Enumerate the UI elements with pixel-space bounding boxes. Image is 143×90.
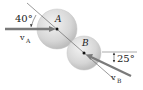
- ball-b-center: [83, 52, 86, 55]
- velocity-b-label: v B: [110, 73, 122, 84]
- angle-arc-40-arrowhead: [30, 24, 33, 27]
- velocity-b-symbol: v: [110, 73, 116, 82]
- velocity-a-symbol: v: [19, 33, 25, 42]
- ball-a-label: A: [54, 14, 62, 24]
- angle-arc-25-arrowhead-top: [113, 53, 115, 56]
- angle-label-25: 25°: [117, 53, 135, 64]
- velocity-a-label: v A: [19, 33, 31, 44]
- velocity-b-subscript: B: [117, 77, 122, 84]
- impact-diagram: 40° A B 25° v A v B: [0, 0, 143, 90]
- ball-b-label: B: [81, 38, 89, 48]
- angle-arc-25-arrowhead-bottom: [113, 60, 115, 63]
- ball-a-center: [56, 28, 59, 31]
- velocity-a-subscript: A: [25, 37, 31, 44]
- angle-label-40: 40°: [15, 13, 33, 24]
